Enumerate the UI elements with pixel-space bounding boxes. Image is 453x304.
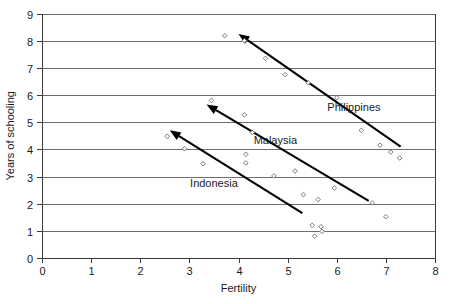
x-tick-label-3: 3	[186, 265, 192, 277]
trend-arrow-malaysia	[207, 105, 219, 114]
series-labels-group: PhilippinesMalaysiaIndonesia	[190, 101, 381, 189]
data-point	[244, 161, 249, 166]
y-tick-label-5: 5	[27, 117, 33, 129]
y-tick-label-4: 4	[27, 144, 33, 156]
y-tick-label-2: 2	[27, 199, 33, 211]
chart-canvas: 0123456780123456789 PhilippinesMalaysiaI…	[0, 0, 453, 304]
data-point	[201, 161, 206, 166]
y-axis-title: Years of schooling	[4, 91, 16, 181]
x-tick-label-7: 7	[383, 265, 389, 277]
y-tick-label-8: 8	[27, 36, 33, 48]
data-point	[312, 234, 317, 239]
data-point	[209, 98, 214, 103]
data-point	[319, 224, 324, 229]
data-point	[242, 113, 247, 118]
trend-line-indonesia	[179, 136, 302, 213]
y-tick-label-7: 7	[27, 63, 33, 75]
tick-labels-group: 0123456780123456789	[27, 9, 439, 278]
x-tick-label-5: 5	[285, 265, 291, 277]
y-tick-label-0: 0	[27, 253, 33, 265]
data-point	[320, 229, 325, 234]
data-point	[244, 152, 249, 157]
data-point	[384, 214, 389, 219]
x-axis-title: Fertility	[221, 282, 257, 294]
series-label-malaysia: Malaysia	[254, 134, 298, 146]
x-tick-label-2: 2	[137, 265, 143, 277]
y-tick-label-6: 6	[27, 90, 33, 102]
data-point	[165, 134, 170, 139]
data-point	[182, 146, 187, 151]
x-tick-label-4: 4	[236, 265, 242, 277]
x-tick-label-6: 6	[334, 265, 340, 277]
trend-line-philippines	[248, 40, 401, 146]
trend-line-malaysia	[216, 110, 369, 201]
series-label-indonesia: Indonesia	[190, 177, 239, 189]
data-point	[293, 169, 298, 174]
data-point	[316, 197, 321, 202]
series-label-philippines: Philippines	[327, 101, 381, 113]
x-tick-label-8: 8	[432, 265, 438, 277]
y-tick-label-3: 3	[27, 172, 33, 184]
axes-group	[42, 14, 436, 259]
data-point	[332, 186, 337, 191]
data-point	[378, 143, 383, 148]
y-tick-label-1: 1	[27, 226, 33, 238]
tick-marks-group	[37, 15, 436, 264]
y-tick-label-9: 9	[27, 9, 33, 21]
data-point	[301, 192, 306, 197]
data-point	[334, 95, 339, 100]
x-tick-label-1: 1	[88, 265, 94, 277]
scatter-chart-container: 0123456780123456789 PhilippinesMalaysiaI…	[0, 0, 453, 304]
data-point	[359, 128, 364, 133]
data-point	[397, 156, 402, 161]
data-point	[310, 223, 315, 228]
data-point	[283, 72, 288, 77]
x-tick-label-0: 0	[39, 265, 45, 277]
data-point	[388, 150, 393, 155]
data-point	[263, 56, 268, 61]
trend-arrow-indonesia	[170, 130, 182, 140]
data-point	[222, 33, 227, 38]
